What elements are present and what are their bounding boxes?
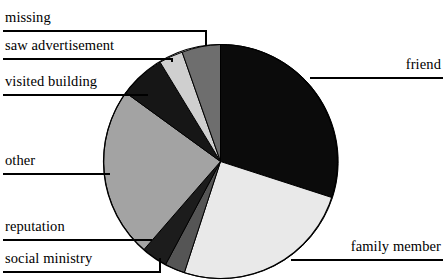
leader-line-saw-advertisement (3, 59, 172, 62)
label-visited-building: visited building (5, 74, 97, 89)
label-other: other (5, 153, 35, 168)
pie-chart-figure: missing saw advertisement visited buildi… (0, 0, 446, 280)
label-social-ministry: social ministry (5, 251, 92, 266)
label-missing: missing (5, 10, 51, 25)
pie-slices (104, 44, 338, 278)
label-family-member: family member (351, 239, 441, 254)
label-saw-advertisement: saw advertisement (5, 38, 114, 53)
label-friend: friend (406, 57, 441, 72)
label-reputation: reputation (5, 219, 65, 234)
